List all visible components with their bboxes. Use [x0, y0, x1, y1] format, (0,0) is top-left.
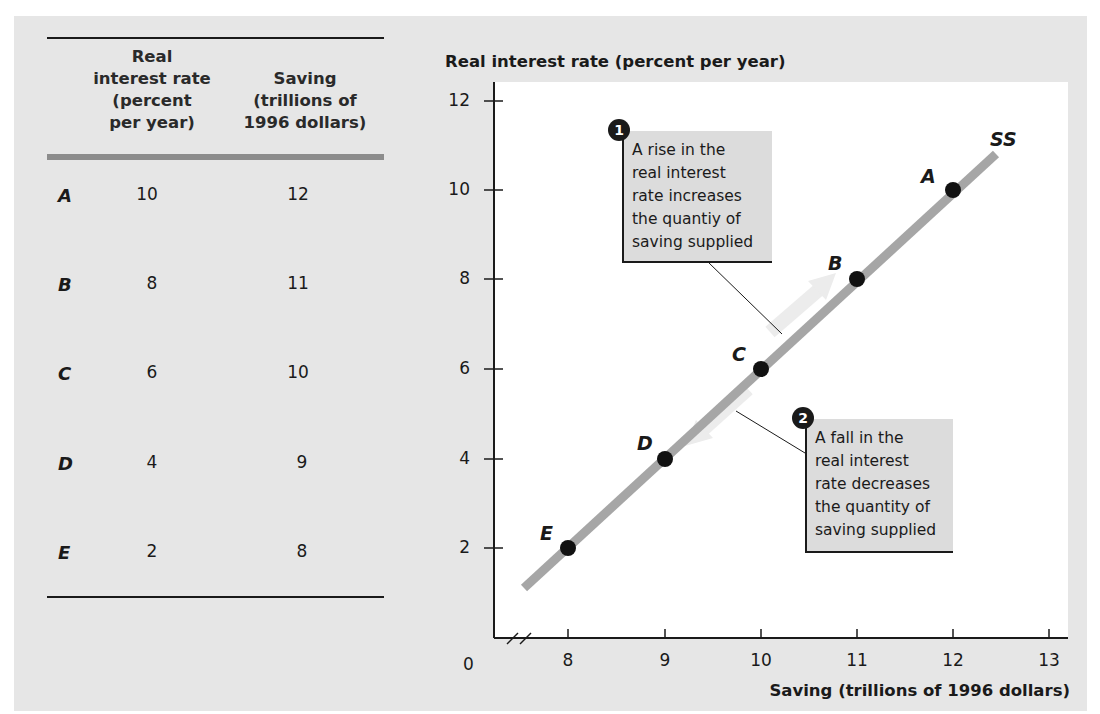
annotation-2-box: A fall in the real interest rate decreas… — [805, 419, 953, 553]
x-tick-label: 13 — [1029, 650, 1069, 670]
x-tick-label: 12 — [933, 650, 973, 670]
point-label-c: C — [732, 343, 746, 365]
y-tick-label: 8 — [440, 268, 470, 288]
x-axis-title: Saving (trillions of 1996 dollars) — [769, 681, 1070, 700]
point-label-e: E — [540, 522, 553, 544]
curve-label-ss: SS — [990, 128, 1017, 150]
y-tick-label: 10 — [440, 179, 470, 199]
point-c — [753, 361, 769, 377]
y-tick-label: 4 — [440, 448, 470, 468]
annotation-1-badge-icon: 1 — [608, 119, 630, 141]
origin-label: 0 — [463, 654, 474, 674]
point-e — [560, 540, 576, 556]
chart-graphics — [0, 0, 1100, 714]
point-d — [657, 451, 673, 467]
point-label-b: B — [828, 252, 842, 274]
point-label-d: D — [637, 432, 653, 454]
y-tick-label: 2 — [440, 537, 470, 557]
point-label-a: A — [921, 165, 936, 187]
x-tick-label: 9 — [645, 650, 685, 670]
x-tick-label: 11 — [837, 650, 877, 670]
y-tick-label: 12 — [440, 90, 470, 110]
point-b — [849, 271, 865, 287]
annotation-1-leader — [708, 262, 782, 334]
x-tick-label: 10 — [741, 650, 781, 670]
y-tick-label: 6 — [440, 358, 470, 378]
point-a — [945, 182, 961, 198]
x-ticks — [568, 629, 1049, 638]
annotation-2-badge-icon: 2 — [792, 407, 814, 429]
x-tick-label: 8 — [548, 650, 588, 670]
annotation-1-box: A rise in the real interest rate increas… — [622, 131, 772, 263]
